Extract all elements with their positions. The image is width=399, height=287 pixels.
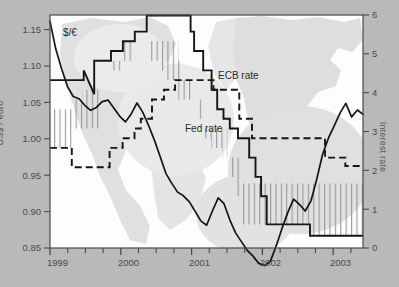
y-tick-label: 1.00	[23, 133, 42, 144]
annotation-ecb-rate: ECB rate	[218, 70, 259, 81]
x-axis-minor-ticks	[68, 248, 351, 253]
chart-figure: US$ / euro Interest rate	[0, 0, 399, 287]
y-axis-right-labels: 0 1 2 3 4 5 6	[372, 9, 377, 253]
x-axis-labels: 1999 2000 2001 2002 2003	[47, 257, 351, 268]
y2-tick-label: 1	[372, 204, 377, 215]
y-tick-label: 1.15	[23, 24, 42, 35]
y2-tick-label: 6	[372, 9, 377, 20]
y-axis-left-labels: 0.85 0.90 0.95 1.00 1.05 1.10 1.15	[23, 24, 42, 253]
x-tick-label: 2000	[118, 257, 139, 268]
y-tick-label: 0.85	[23, 242, 42, 253]
x-tick-label: 2002	[260, 257, 281, 268]
y2-tick-label: 3	[372, 126, 377, 137]
y2-tick-label: 4	[372, 87, 377, 98]
y2-tick-label: 5	[372, 48, 377, 59]
x-axis-major-ticks	[50, 248, 333, 255]
y-tick-label: 0.90	[23, 206, 42, 217]
x-tick-label: 2003	[330, 257, 351, 268]
x-tick-label: 1999	[47, 257, 68, 268]
annotation-exchange-rate: $/€	[63, 27, 77, 38]
y-axis-right-ticks	[363, 15, 369, 248]
x-tick-label: 2001	[189, 257, 210, 268]
annotation-fed-rate: Fed rate	[185, 123, 223, 134]
y-axis-left-ticks	[44, 30, 50, 248]
y2-tick-label: 0	[372, 242, 377, 253]
y-tick-label: 1.05	[23, 97, 42, 108]
y2-tick-label: 2	[372, 165, 377, 176]
y-tick-label: 0.95	[23, 170, 42, 181]
chart-plot-svg: 0.85 0.90 0.95 1.00 1.05 1.10 1.15 0 1 2…	[0, 0, 399, 287]
y-tick-label: 1.10	[23, 60, 42, 71]
